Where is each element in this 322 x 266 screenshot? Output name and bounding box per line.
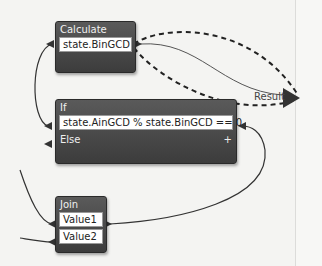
calculate-node-title: Calculate	[56, 22, 135, 37]
else-row[interactable]: Else +	[56, 132, 236, 147]
calculate-output-slot[interactable]: state.BinGCD	[59, 37, 132, 52]
result-label: Result	[254, 91, 285, 102]
if-condition-slot[interactable]: state.AinGCD % state.BinGCD == 0	[59, 115, 233, 130]
if-node[interactable]: If state.AinGCD % state.BinGCD == 0 Else…	[55, 99, 237, 164]
join-input-value1[interactable]: Value1	[59, 212, 103, 227]
join-node-title: Join	[56, 197, 106, 212]
calculate-node[interactable]: Calculate state.BinGCD	[55, 21, 136, 73]
if-node-title: If	[56, 100, 236, 115]
result-port-icon	[283, 88, 300, 108]
join-node[interactable]: Join Value1 Value2	[55, 196, 107, 253]
else-label: Else	[60, 133, 80, 146]
join-input-value2[interactable]: Value2	[59, 229, 103, 244]
add-icon[interactable]: +	[224, 133, 232, 146]
